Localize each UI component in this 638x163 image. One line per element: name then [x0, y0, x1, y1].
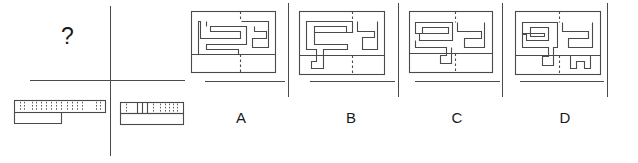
prompt-vertical-divider	[110, 6, 111, 156]
stimulus-right-shape	[121, 103, 184, 125]
option-b-shape	[300, 12, 385, 75]
option-baseline-c	[415, 81, 500, 82]
option-baseline-b	[310, 81, 395, 82]
prompt-horizontal-divider	[30, 80, 185, 81]
option-c-shape	[410, 12, 493, 73]
option-divider-1	[288, 3, 289, 97]
option-a-shape	[192, 12, 276, 73]
visual-reasoning-figure: ?	[0, 0, 638, 163]
option-baseline-d	[520, 81, 604, 82]
option-d-shape	[516, 12, 601, 75]
option-divider-2	[398, 3, 399, 97]
stimulus-left-shape	[15, 101, 106, 124]
option-label-a[interactable]: A	[226, 110, 256, 125]
option-label-d[interactable]: D	[550, 110, 580, 125]
question-mark: ?	[61, 25, 74, 48]
option-divider-3	[502, 3, 503, 97]
option-label-c[interactable]: C	[442, 110, 472, 125]
option-divider-4	[607, 3, 608, 97]
option-baseline-a	[205, 81, 285, 82]
option-label-b[interactable]: B	[336, 110, 366, 125]
